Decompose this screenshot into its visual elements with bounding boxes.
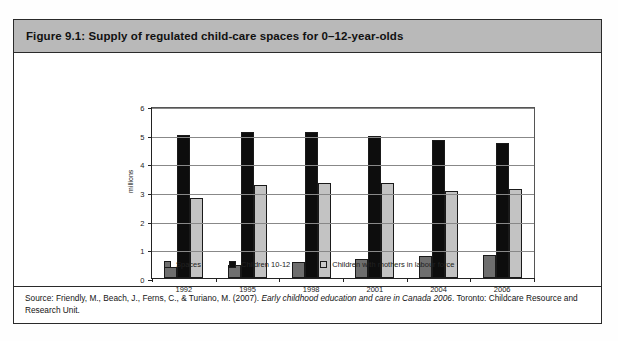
figure-page: Figure 9.1: Supply of regulated child-ca…	[0, 0, 618, 341]
plot-area: 199219951998200120042006 0123456	[151, 107, 535, 279]
legend-item: Spaces	[164, 260, 201, 269]
source-title-italic: Early childhood education and care in Ca…	[261, 293, 452, 303]
y-axis-tick	[148, 223, 152, 224]
y-axis-label: 6	[140, 104, 144, 113]
y-axis-label: 0	[140, 276, 144, 285]
figure-title: Figure 9.1: Supply of regulated child-ca…	[14, 30, 403, 42]
x-axis-tick	[216, 278, 217, 282]
y-axis-tick	[148, 251, 152, 252]
legend-swatch-icon	[229, 261, 236, 268]
bar-group: 2001	[343, 108, 407, 278]
x-axis-tick	[343, 278, 344, 282]
y-axis-tick	[148, 165, 152, 166]
y-axis-label: 4	[140, 161, 144, 170]
bar-group: 1992	[152, 108, 216, 278]
bar-children-10-12-2006	[496, 143, 509, 278]
figure-container: Figure 9.1: Supply of regulated child-ca…	[13, 19, 602, 324]
bar-group: 2004	[407, 108, 471, 278]
bar-children-10-12-2001	[368, 136, 381, 278]
y-axis-label: 2	[140, 218, 144, 227]
bar-groups: 199219951998200120042006	[152, 108, 534, 278]
gridline	[152, 223, 534, 224]
source-note: Source: Friendly, M., Beach, J., Ferns, …	[14, 287, 601, 324]
x-axis-tick	[470, 278, 471, 282]
gridline	[152, 194, 534, 195]
bar-group: 1995	[216, 108, 280, 278]
legend-swatch-icon	[164, 261, 171, 268]
gridline	[152, 251, 534, 252]
y-axis-label: 3	[140, 190, 144, 199]
legend-item: Children with mothers in labour force	[320, 260, 454, 269]
bar-children-10-12-2004	[432, 140, 445, 278]
bar-children-10-12-1995	[241, 132, 254, 278]
legend-swatch-icon	[320, 261, 327, 268]
y-axis-tick	[148, 137, 152, 138]
figure-title-band: Figure 9.1: Supply of regulated child-ca…	[14, 20, 601, 53]
y-axis-label: 1	[140, 247, 144, 256]
gridline	[152, 137, 534, 138]
bar-children-10-12-1998	[305, 132, 318, 278]
legend-label: Children with mothers in labour force	[332, 260, 454, 269]
legend-label: Spaces	[176, 260, 201, 269]
x-axis-tick	[534, 278, 535, 282]
gridline	[152, 108, 534, 109]
y-axis-title: millions	[127, 170, 134, 193]
y-axis-tick	[148, 108, 152, 109]
y-axis-tick	[148, 194, 152, 195]
y-axis-label: 5	[140, 132, 144, 141]
chart-legend: SpacesChildren 10-12Children with mother…	[164, 260, 564, 269]
gridline	[152, 165, 534, 166]
y-axis-tick	[148, 280, 152, 281]
x-axis-tick	[407, 278, 408, 282]
x-axis-tick	[152, 278, 153, 282]
bar-group: 2006	[470, 108, 534, 278]
legend-label: Children 10-12	[241, 260, 290, 269]
bar-group: 1998	[279, 108, 343, 278]
bar-children-10-12-1992	[177, 135, 190, 278]
x-axis-tick	[279, 278, 280, 282]
legend-item: Children 10-12	[229, 260, 290, 269]
source-prefix: Source: Friendly, M., Beach, J., Ferns, …	[25, 293, 261, 303]
chart-region: millions 199219951998200120042006 012345…	[14, 53, 601, 286]
